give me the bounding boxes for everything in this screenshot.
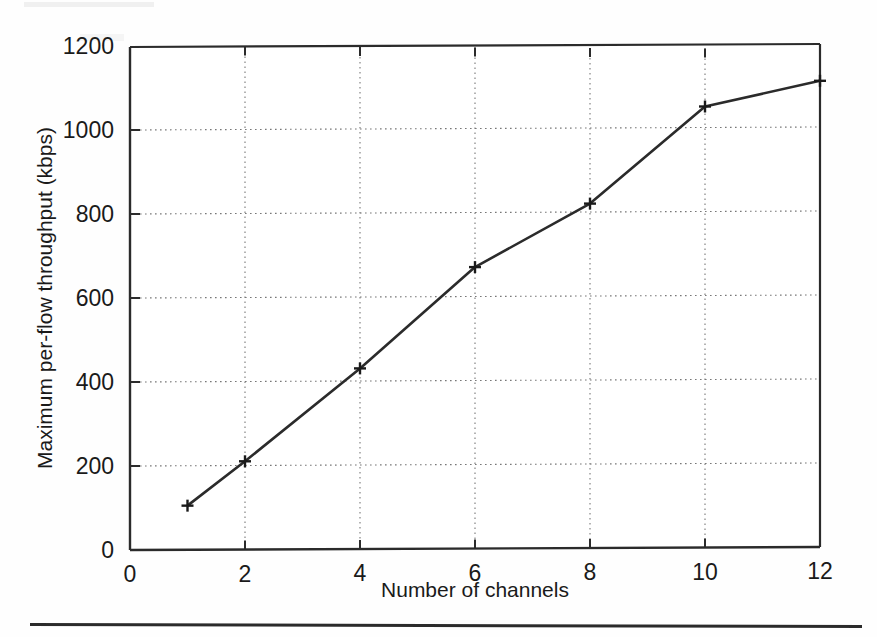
x-tick-label: 10 [692,559,718,585]
y-tick-label: 800 [76,201,114,227]
x-tick-label: 12 [807,558,833,584]
y-tick-label: 1000 [63,117,114,143]
x-tick-label: 2 [239,561,252,587]
page-separator-rule [30,623,862,628]
y-tick-label: 200 [76,453,114,479]
x-tick-label: 0 [124,561,137,587]
figure-page: 020040060080010001200 024681012 Number o… [0,0,877,637]
line-chart: 020040060080010001200 024681012 Number o… [0,0,877,600]
y-tick-label: 0 [101,537,114,563]
x-tick-label: 4 [354,560,367,586]
x-tick-label: 8 [584,559,597,585]
y-tick-label: 1200 [63,33,114,59]
y-axis-title: Maximum per-flow throughput (kbps) [33,127,56,469]
y-tick-label: 400 [76,369,114,395]
chart-figure: 020040060080010001200 024681012 Number o… [0,0,877,600]
y-tick-label: 600 [76,285,114,311]
y-axis-tick-labels: 020040060080010001200 [63,33,114,563]
x-axis-title: Number of channels [381,578,569,600]
